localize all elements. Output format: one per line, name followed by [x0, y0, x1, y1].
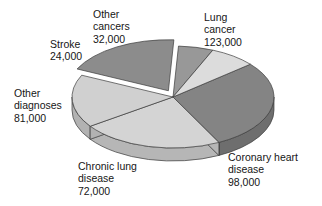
label-line-3: 72,000 — [78, 185, 137, 197]
label-line-1: Other — [14, 87, 62, 99]
label-line-2: disease — [78, 172, 137, 184]
slice-label-lung-cancer: Lung cancer 123,000 — [204, 11, 242, 48]
label-line-3: 123,000 — [204, 36, 242, 48]
label-line-1: Stroke — [50, 38, 82, 50]
slice-label-other-cancers: Other cancers 32,000 — [93, 8, 130, 45]
pie-chart-figure: Lung cancer 123,000 Other cancers 32,000… — [0, 0, 322, 206]
slice-label-stroke: Stroke 24,000 — [50, 38, 82, 63]
label-line-2: 24,000 — [50, 50, 82, 62]
label-line-1: Lung — [204, 11, 242, 23]
label-line-2: cancers — [93, 20, 130, 32]
label-line-2: diagnoses — [14, 99, 62, 111]
label-line-1: Coronary heart — [228, 151, 298, 163]
label-line-3: 98,000 — [228, 176, 298, 188]
slice-label-coronary-heart-disease: Coronary heart disease 98,000 — [228, 151, 298, 188]
label-line-1: Chronic lung — [78, 160, 137, 172]
label-line-2: disease — [228, 163, 298, 175]
label-line-2: cancer — [204, 23, 242, 35]
label-line-3: 81,000 — [14, 112, 62, 124]
slice-label-chronic-lung-disease: Chronic lung disease 72,000 — [78, 160, 137, 197]
label-line-3: 32,000 — [93, 33, 130, 45]
slice-label-other-diagnoses: Other diagnoses 81,000 — [14, 87, 62, 124]
label-line-1: Other — [93, 8, 130, 20]
